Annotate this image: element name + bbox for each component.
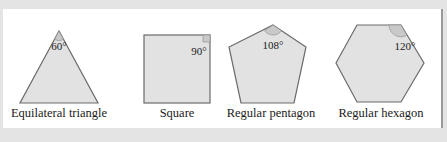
angle-label: 120° — [395, 40, 416, 52]
shape-name-label: Equilateral triangle — [11, 106, 108, 120]
angle-label: 108° — [263, 39, 284, 51]
square: 90° Square — [144, 35, 210, 120]
angle-marker-icon — [265, 25, 282, 35]
shape-name-label: Regular hexagon — [338, 106, 424, 120]
equilateral-triangle: 60° Equilateral triangle — [11, 31, 108, 120]
shape-name-label: Regular pentagon — [227, 106, 316, 120]
regular-pentagon: 108° Regular pentagon — [227, 25, 316, 120]
regular-hexagon: 120° Regular hexagon — [336, 25, 424, 120]
angle-label: 90° — [191, 45, 206, 57]
pentagon-shape — [229, 25, 306, 103]
right-angle-marker-icon — [203, 35, 210, 42]
hexagon-shape — [336, 25, 424, 102]
angle-label: 60° — [51, 40, 66, 52]
polygon-angles-diagram: 60° Equilateral triangle 90° Square 108°… — [0, 0, 447, 142]
shape-name-label: Square — [160, 106, 195, 120]
